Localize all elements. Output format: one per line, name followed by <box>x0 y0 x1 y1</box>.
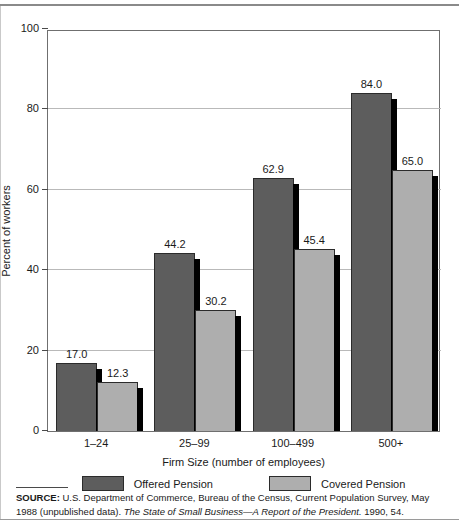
y-tick: 0 <box>48 430 49 431</box>
bar-offered[interactable]: 44.2 <box>154 253 195 431</box>
chart-legend: Offered Pension Covered Pension <box>47 476 440 491</box>
y-tick: 60 <box>48 189 49 190</box>
bar-shadow <box>235 316 241 431</box>
y-tick-label: 20 <box>27 344 39 355</box>
plot-area: 020406080100 17.012.344.230.262.945.484.… <box>47 30 440 432</box>
legend-label-offered: Offered Pension <box>134 478 213 490</box>
legend-item-offered: Offered Pension <box>82 476 213 491</box>
bar-value-label: 84.0 <box>361 79 382 90</box>
source-body-after: 1990, 54. <box>362 506 404 517</box>
bar-value-label: 17.0 <box>66 349 87 360</box>
top-divider-rule <box>0 4 459 6</box>
legend-item-covered: Covered Pension <box>269 476 405 491</box>
y-tick-label: 80 <box>27 103 39 114</box>
bar-value-label: 12.3 <box>107 368 128 379</box>
y-tick-label: 100 <box>21 23 39 34</box>
y-tick-mark <box>42 28 48 29</box>
y-tick: 100 <box>48 28 49 29</box>
y-tick: 40 <box>48 269 49 270</box>
source-note: SOURCE: U.S. Department of Commerce, Bur… <box>16 491 444 519</box>
bar-group: 84.065.0 <box>351 31 433 431</box>
bar-value-label: 30.2 <box>205 296 226 307</box>
bar-value-label: 44.2 <box>164 239 185 250</box>
bar-covered[interactable]: 12.3 <box>97 382 138 431</box>
bar-covered[interactable]: 65.0 <box>392 170 433 431</box>
y-tick-label: 0 <box>33 425 39 436</box>
y-tick-label: 60 <box>27 183 39 194</box>
bar-group: 62.945.4 <box>253 31 335 431</box>
y-tick: 80 <box>48 108 49 109</box>
bar-shadow <box>137 388 143 431</box>
bar-chart-figure: Percent of workers 020406080100 17.012.3… <box>0 8 459 488</box>
y-tick-mark <box>42 189 48 190</box>
x-tick-label: 500+ <box>342 438 440 449</box>
bar-group: 17.012.3 <box>56 31 138 431</box>
legend-swatch-offered <box>82 476 124 491</box>
bar-value-label: 45.4 <box>303 235 324 246</box>
y-tick-mark <box>42 269 48 270</box>
x-tick-label: 1–24 <box>47 438 145 449</box>
y-axis-title: Percent of workers <box>0 185 12 277</box>
y-tick-mark <box>42 430 48 431</box>
bar-value-label: 65.0 <box>402 156 423 167</box>
y-tick-mark <box>42 108 48 109</box>
bar-covered[interactable]: 30.2 <box>195 310 236 431</box>
bar-offered[interactable]: 62.9 <box>253 178 294 431</box>
x-tick-label: 100–499 <box>244 438 342 449</box>
x-axis-title: Firm Size (number of employees) <box>47 456 440 468</box>
source-divider-rule <box>16 487 68 488</box>
bar-value-label: 62.9 <box>262 164 283 175</box>
source-publication-title: The State of Small Business—A Report of … <box>124 506 362 517</box>
y-tick: 20 <box>48 350 49 351</box>
legend-swatch-covered <box>269 476 311 491</box>
bar-offered[interactable]: 17.0 <box>56 363 97 431</box>
legend-label-covered: Covered Pension <box>321 478 405 490</box>
bar-group: 44.230.2 <box>154 31 236 431</box>
y-tick-label: 40 <box>27 264 39 275</box>
source-label: SOURCE: <box>16 492 60 503</box>
bottom-divider-rule <box>0 519 459 520</box>
y-tick-mark <box>42 350 48 351</box>
bar-offered[interactable]: 84.0 <box>351 93 392 431</box>
bar-shadow <box>432 176 438 431</box>
bar-shadow <box>334 255 340 432</box>
bar-covered[interactable]: 45.4 <box>294 249 335 432</box>
x-tick-label: 25–99 <box>145 438 243 449</box>
